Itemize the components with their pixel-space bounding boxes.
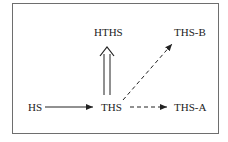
edge-ths-thsb (123, 44, 172, 100)
edge-ths-hths (100, 47, 114, 95)
edges-layer (0, 0, 228, 142)
